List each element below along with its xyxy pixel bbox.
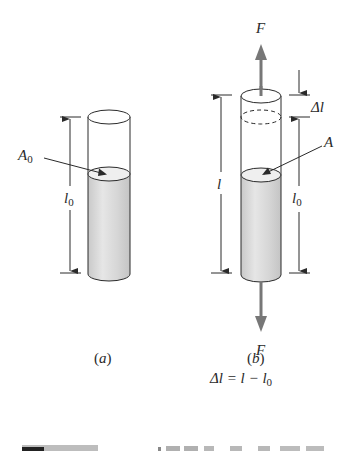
delta-l-label: Δl xyxy=(310,99,324,115)
length-label-l0-b: l0 xyxy=(292,190,302,208)
truncated-caption-strip xyxy=(22,445,324,451)
area-label-a: A xyxy=(323,134,334,150)
force-arrow-top: F xyxy=(255,20,267,96)
cross-section-a xyxy=(241,168,281,182)
caption-a: (a) xyxy=(94,350,112,367)
original-top-dashed xyxy=(241,110,281,124)
force-label-top: F xyxy=(255,20,266,36)
dimension-delta-l: Δl xyxy=(289,70,324,117)
dimension-l0-a: l0 xyxy=(60,117,81,273)
elongation-equation: Δl = l − l0 xyxy=(209,370,273,388)
stress-strain-cylinder-figure: l0 A0 (a) F xyxy=(0,0,361,451)
dimension-l-b: l xyxy=(211,95,232,273)
caption-b: (b) xyxy=(247,350,265,367)
dimension-l0-b: l0 xyxy=(289,119,310,273)
cylinder-a xyxy=(88,110,130,281)
cylinder-b xyxy=(241,86,281,282)
force-arrow-bottom: F xyxy=(255,282,267,358)
length-label-l0-a: l0 xyxy=(64,190,74,208)
cross-section-a0 xyxy=(88,167,130,181)
panel-a: l0 A0 (a) xyxy=(17,110,130,367)
panel-b: F F l xyxy=(209,20,334,388)
area-label-a0: A0 xyxy=(17,147,33,165)
length-label-l: l xyxy=(217,176,221,192)
